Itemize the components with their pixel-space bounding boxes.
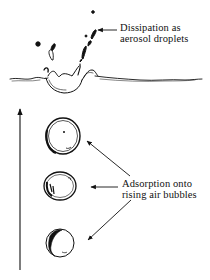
- arrow-to-upper-bubble: [87, 141, 130, 176]
- droplet: [49, 50, 53, 60]
- droplet: [82, 46, 86, 59]
- droplet: [80, 59, 82, 62]
- aerosol-droplets: [36, 11, 96, 62]
- bubble-upper: [46, 118, 80, 154]
- bubble-lower: [46, 229, 74, 257]
- aerosol-label: Dissipation as aerosol droplets: [120, 22, 188, 44]
- aerosol-label-line1: Dissipation as: [120, 22, 188, 33]
- aerosol-label-line2: aerosol droplets: [120, 33, 188, 44]
- arrow-to-lower-bubble: [88, 200, 131, 240]
- droplet: [36, 42, 40, 46]
- bubbles-label: Adsorption onto rising air bubbles: [122, 178, 197, 200]
- diagram-canvas: Dissipation as aerosol droplets Adsorpti…: [0, 0, 210, 280]
- bubbles-label-line1: Adsorption onto: [122, 178, 197, 189]
- droplet: [91, 30, 96, 39]
- bubble-middle: [44, 172, 76, 200]
- droplet: [88, 41, 91, 46]
- droplet: [92, 11, 95, 14]
- water-surface: [10, 64, 202, 93]
- bubbles-label-line2: rising air bubbles: [122, 189, 197, 200]
- droplet: [85, 35, 87, 37]
